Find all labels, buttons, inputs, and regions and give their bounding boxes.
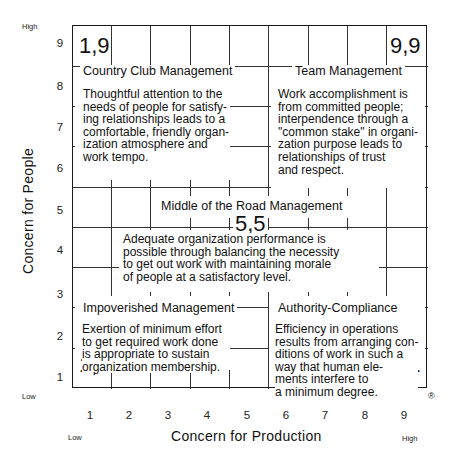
registered-mark: ® <box>428 391 435 401</box>
x-tick: 9 <box>397 409 411 421</box>
style-title-country-club: Country Club Management <box>80 65 235 78</box>
style-title-team: Team Management <box>292 65 405 78</box>
x-axis-title: Concern for Production <box>171 428 322 444</box>
x-tick: 3 <box>161 409 175 421</box>
x-tick: 4 <box>200 409 214 421</box>
y-tick: 4 <box>53 244 67 256</box>
x-tick: 1 <box>83 409 97 421</box>
y-tick: 7 <box>53 121 67 133</box>
style-title-impoverished: Impoverished Management <box>80 302 237 315</box>
x-tick: 5 <box>240 409 254 421</box>
y-tick: 2 <box>53 330 67 342</box>
style-description-country-club: Thoughtful attention to the needs of peo… <box>83 88 229 164</box>
x-axis-low-label: Low <box>68 433 82 442</box>
style-description-impoverished: Exertion of minimum effort to get requir… <box>82 323 222 373</box>
y-axis-high-label: High <box>22 22 37 31</box>
coord-label-9-9: 9,9 <box>390 35 421 57</box>
x-tick: 8 <box>358 409 372 421</box>
y-axis-low-label: Low <box>22 392 36 401</box>
style-description-team: Work accomplishment is from committed pe… <box>278 88 418 176</box>
x-tick: 7 <box>318 409 332 421</box>
style-description-authority-compliance: Efficiency in operations results from ar… <box>275 323 418 399</box>
x-tick: 2 <box>122 409 136 421</box>
y-tick: 9 <box>53 37 67 49</box>
y-tick: 5 <box>53 204 67 216</box>
figure-caption-fragment <box>8 462 308 469</box>
y-tick: 6 <box>53 162 67 174</box>
y-tick: 3 <box>53 288 67 300</box>
style-description-middle-of-the-road: Adequate organization performance is pos… <box>123 233 339 283</box>
style-title-middle-of-the-road: Middle of the Road Management <box>158 200 345 213</box>
style-title-authority-compliance: Authority-Compliance <box>275 302 401 315</box>
y-tick: 8 <box>53 80 67 92</box>
coord-label-1-9: 1,9 <box>79 35 110 57</box>
x-tick: 6 <box>279 409 293 421</box>
y-axis-title: Concern for People <box>20 136 36 286</box>
y-tick: 1 <box>53 371 67 383</box>
managerial-grid: 1,9 9,9 5,5 1,1 9,1 Country Club Managem… <box>72 25 427 388</box>
x-axis-high-label: High <box>402 434 417 443</box>
